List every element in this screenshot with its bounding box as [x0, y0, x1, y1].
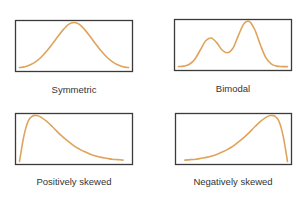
distribution-shapes-figure: Symmetric Bimodal Positively skewed Nega… — [0, 0, 303, 200]
symmetric-label: Symmetric — [52, 84, 97, 95]
panel-positively-skewed: Positively skewed — [16, 114, 133, 188]
negatively-skewed-frame — [176, 114, 292, 165]
bimodal-label: Bimodal — [216, 83, 250, 94]
negatively-skewed-label: Negatively skewed — [193, 176, 272, 187]
positively-skewed-frame — [16, 114, 133, 165]
panel-negatively-skewed: Negatively skewed — [176, 114, 292, 188]
panel-symmetric: Symmetric — [16, 21, 133, 96]
panel-bimodal: Bimodal — [175, 20, 292, 95]
positively-skewed-label: Positively skewed — [37, 176, 112, 187]
